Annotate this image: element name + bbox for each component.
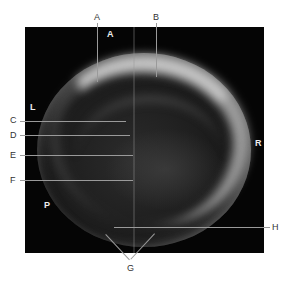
- image-panel: A L R P: [25, 27, 264, 253]
- callout-line-c: [20, 121, 126, 122]
- callout-label-g: G: [127, 264, 134, 273]
- inner-arc-band: [75, 95, 225, 225]
- callout-line-b: [156, 23, 157, 77]
- callout-label-h: H: [272, 223, 279, 232]
- callout-label-c: C: [10, 116, 17, 125]
- callout-line-h: [114, 227, 270, 228]
- orientation-label-left: L: [30, 103, 36, 112]
- callout-label-b: B: [153, 13, 159, 22]
- callout-line-a: [97, 23, 98, 82]
- callout-line-f: [20, 180, 133, 181]
- callout-line-d: [20, 135, 130, 136]
- callout-label-e: E: [10, 151, 16, 160]
- callout-label-d: D: [10, 131, 17, 140]
- callout-label-f: F: [10, 176, 16, 185]
- callout-line-e: [20, 155, 133, 156]
- orientation-label-right: R: [255, 139, 262, 148]
- orientation-label-top: A: [107, 30, 114, 39]
- orientation-label-bottom-left: P: [44, 201, 50, 210]
- vertical-streak: [133, 27, 135, 253]
- callout-label-a: A: [94, 13, 100, 22]
